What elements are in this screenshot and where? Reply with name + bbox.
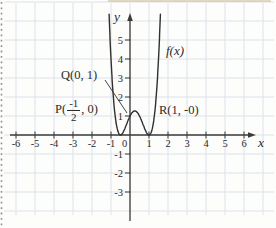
p-label-prefix: P( <box>55 103 66 117</box>
y-tick-label: -1 <box>114 149 123 160</box>
y-tick-label: 4 <box>118 54 124 65</box>
x-tick-label: -4 <box>50 138 59 149</box>
curve-label: f(x) <box>166 44 184 58</box>
x-tick-label: -1 <box>107 138 116 149</box>
x-tick-label: 2 <box>165 138 170 149</box>
x-tick-label: 6 <box>241 138 246 149</box>
x-tick-label: -5 <box>31 138 40 149</box>
x-tick-label: 4 <box>203 138 209 149</box>
x-tick-label: -6 <box>12 138 21 149</box>
y-axis-label: y <box>114 10 120 25</box>
x-axis-arrowhead <box>248 132 256 138</box>
x-tick-label: 5 <box>222 138 227 149</box>
x-tick-label: -3 <box>69 138 78 149</box>
grid-lines <box>0 2 274 215</box>
point-label-p: P( -1 2 , 0) <box>55 97 98 122</box>
x-axis-label: x <box>258 136 264 151</box>
p-label-fraction: -1 2 <box>67 98 80 123</box>
y-tick-label: -2 <box>114 168 123 179</box>
y-tick-label: 1 <box>118 111 123 122</box>
p-label-suffix: , 0) <box>81 103 98 117</box>
plot-svg: -6-5-4-3-2-112345654321-1-2-30 <box>0 0 276 228</box>
x-tick-label: 3 <box>184 138 189 149</box>
y-tick-label: 3 <box>118 73 123 84</box>
p-fraction-numerator: -1 <box>67 98 80 111</box>
y-tick-label: -3 <box>114 187 123 198</box>
y-axis-arrowhead <box>127 13 133 21</box>
origin-label: 0 <box>122 138 127 149</box>
p-fraction-denominator: 2 <box>71 111 77 123</box>
y-tick-label: 5 <box>118 35 123 46</box>
point-label-q: Q(0, 1) <box>61 69 97 83</box>
point-label-r: R(1, -0) <box>159 104 199 118</box>
x-tick-label: -2 <box>88 138 97 149</box>
graph-figure: -6-5-4-3-2-112345654321-1-2-30 y x f(x) … <box>0 0 276 228</box>
x-tick-label: 1 <box>146 138 151 149</box>
